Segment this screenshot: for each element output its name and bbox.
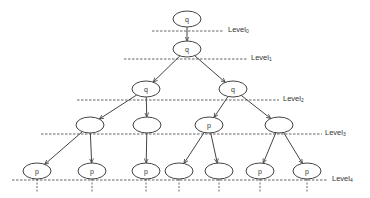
tree-node-n7 — [265, 117, 293, 133]
edge-arrow — [90, 133, 91, 163]
node-label: p — [207, 122, 211, 129]
level-subscript: 0 — [246, 28, 249, 34]
edge-arrow — [195, 56, 226, 83]
tree-canvas — [0, 0, 370, 198]
node-label: p — [258, 168, 262, 175]
tree-node-n12 — [205, 163, 233, 179]
edge-arrow — [263, 133, 276, 163]
level-2-label: Level2 — [283, 95, 304, 103]
level-4-label: Level4 — [332, 175, 353, 183]
tree-node-n5 — [133, 117, 161, 133]
level-text: Level — [251, 53, 269, 62]
level-lines — [12, 31, 328, 180]
node-label: q — [185, 46, 189, 53]
edge-arrow — [211, 133, 218, 163]
level-text: Level — [325, 128, 343, 137]
level-subscript: 3 — [343, 131, 346, 137]
level-subscript: 4 — [350, 177, 353, 183]
node-label: p — [35, 168, 39, 175]
tree-node-n11 — [165, 163, 193, 179]
edge-arrow — [153, 56, 180, 82]
node-label: q — [144, 86, 148, 93]
edge-arrow — [184, 132, 204, 163]
node-label: q — [231, 86, 235, 93]
node-label: p — [90, 168, 94, 175]
level-text: Level — [283, 94, 301, 103]
level-0-label: Level0 — [228, 26, 249, 34]
edge-arrow — [241, 95, 270, 118]
level-subscript: 2 — [301, 97, 304, 103]
level-text: Level — [332, 174, 350, 183]
edge-arrow — [45, 132, 83, 165]
level-text: Level — [228, 25, 246, 34]
edge-arrow — [146, 97, 147, 117]
level-subscript: 1 — [269, 56, 272, 62]
edge-arrow — [146, 133, 147, 163]
level-1-label: Level1 — [251, 54, 272, 62]
tree-diagram: Level0Level1Level2Level3Level4qqqqpppppp — [0, 0, 370, 198]
edge-arrow — [284, 133, 303, 164]
level-3-label: Level3 — [325, 129, 346, 137]
continuation-stubs — [37, 179, 307, 193]
edge-arrow — [99, 95, 136, 119]
tree-node-n4 — [76, 117, 104, 133]
tree-nodes — [23, 11, 321, 179]
node-label: p — [144, 168, 148, 175]
node-label: p — [305, 168, 309, 175]
node-label: q — [185, 16, 189, 23]
